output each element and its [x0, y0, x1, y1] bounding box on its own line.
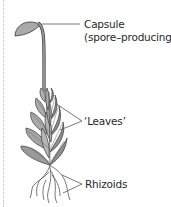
stalk-shape — [38, 23, 44, 92]
leaves-label: ‘Leaves’ — [84, 115, 126, 127]
moss-diagram: Capsule (spore–producing) ‘Leaves’ Rhizo… — [0, 0, 171, 207]
leafy-shoot-shape — [21, 88, 67, 168]
capsule-label: Capsule — [84, 18, 125, 30]
rhizoids-leader-line — [62, 175, 82, 193]
capsule-note-label: (spore–producing) — [84, 31, 171, 43]
capsule-shape — [15, 22, 40, 36]
rhizoids-label: Rhizoids — [85, 178, 127, 190]
rhizoids-shape — [30, 165, 70, 203]
